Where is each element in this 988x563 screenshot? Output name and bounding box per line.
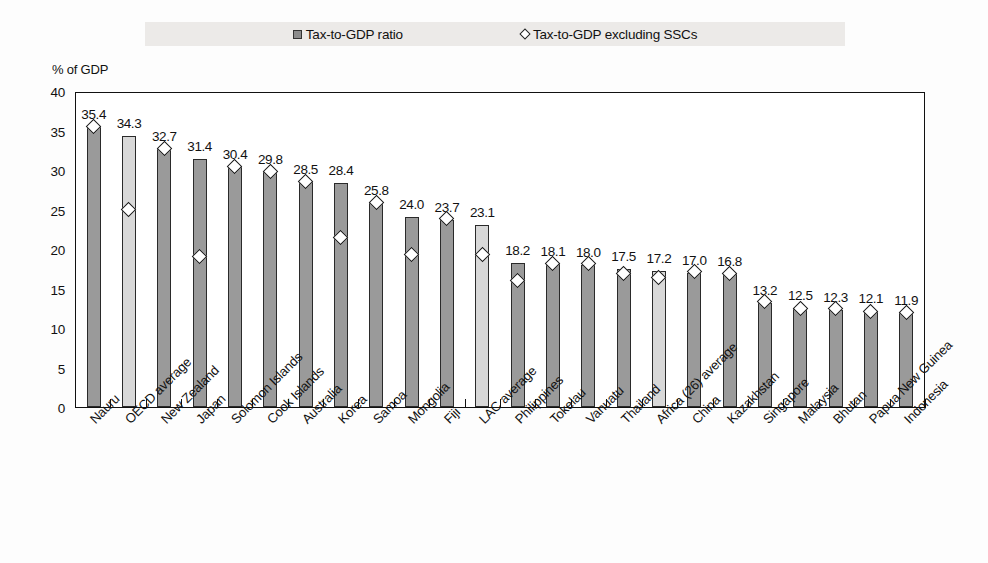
bar-tax-to-gdp-ratio[interactable]: 23.1	[475, 225, 489, 407]
y-axis: 4035302520151050	[0, 92, 75, 408]
bar-value-label: 28.4	[329, 163, 354, 178]
bar-tax-to-gdp-ratio[interactable]: 35.4	[87, 127, 101, 407]
bar-slot[interactable]: 35.4	[76, 93, 111, 407]
bar-slot[interactable]: 18.2	[500, 93, 535, 407]
legend-label-series1: Tax-to-GDP ratio	[306, 27, 403, 42]
bar-value-label: 18.2	[505, 243, 530, 258]
bar-slot[interactable]: 25.8	[359, 93, 394, 407]
legend-item-tax-to-gdp-ratio: Tax-to-GDP ratio	[293, 27, 403, 42]
bar-tax-to-gdp-ratio[interactable]: 28.4	[334, 183, 348, 407]
bar-slot[interactable]: 13.2	[747, 93, 782, 407]
bar-tax-to-gdp-ratio[interactable]: 25.8	[369, 203, 383, 407]
bar-value-label: 24.0	[399, 197, 424, 212]
x-axis-labels: NauruOECD averageNew ZealandJapanSolomon…	[0, 408, 988, 558]
bar-tax-to-gdp-ratio[interactable]: 34.3	[122, 136, 136, 407]
marker-tax-excluding-sscs[interactable]	[510, 273, 526, 289]
bar-slot[interactable]: 23.1	[465, 93, 500, 407]
x-axis-category-label: Fiji	[441, 405, 463, 427]
x-axis-tick-mark	[75, 399, 76, 408]
bar-slot[interactable]: 11.9	[889, 93, 924, 407]
marker-tax-excluding-sscs[interactable]	[474, 247, 490, 263]
marker-tax-excluding-sscs[interactable]	[192, 249, 208, 265]
bar-value-label: 17.5	[611, 249, 636, 264]
filled-square-icon	[293, 30, 302, 39]
bar-value-label: 31.4	[187, 139, 212, 154]
bar-slot[interactable]: 12.1	[853, 93, 888, 407]
bar-value-label: 17.2	[647, 251, 672, 266]
bar-slot[interactable]: 34.3	[111, 93, 146, 407]
bar-slot[interactable]: 28.4	[323, 93, 358, 407]
bar-series-container: 35.434.332.731.430.429.828.528.425.824.0…	[76, 93, 924, 407]
y-axis-tick-label: 5	[58, 361, 65, 376]
legend-label-series2: Tax-to-GDP excluding SSCs	[533, 27, 697, 42]
bar-slot[interactable]: 24.0	[394, 93, 429, 407]
plot-area: 35.434.332.731.430.429.828.528.425.824.0…	[75, 92, 925, 408]
y-axis-title: % of GDP	[52, 62, 108, 77]
bar-slot[interactable]: 12.3	[818, 93, 853, 407]
bar-value-label: 34.3	[117, 116, 142, 131]
bar-slot[interactable]: 30.4	[217, 93, 252, 407]
y-axis-tick-label: 25	[51, 203, 65, 218]
chart-page: Tax-to-GDP ratio Tax-to-GDP excluding SS…	[0, 0, 988, 563]
x-axis-tick-mark	[465, 399, 466, 408]
marker-tax-excluding-sscs[interactable]	[404, 247, 420, 263]
bar-slot[interactable]: 17.5	[606, 93, 641, 407]
diamond-outline-icon	[519, 28, 530, 39]
marker-tax-excluding-sscs[interactable]	[651, 269, 667, 285]
bar-tax-to-gdp-ratio[interactable]: 24.0	[405, 217, 419, 407]
y-axis-tick-label: 35	[51, 124, 65, 139]
legend-item-tax-to-gdp-excluding-sscs: Tax-to-GDP excluding SSCs	[521, 27, 697, 42]
marker-tax-excluding-sscs[interactable]	[616, 266, 632, 282]
bar-tax-to-gdp-ratio[interactable]: 18.0	[581, 265, 595, 407]
y-axis-tick-label: 20	[51, 243, 65, 258]
bar-slot[interactable]: 18.1	[535, 93, 570, 407]
bar-slot[interactable]: 18.0	[571, 93, 606, 407]
bar-slot[interactable]: 12.5	[783, 93, 818, 407]
chart-legend: Tax-to-GDP ratio Tax-to-GDP excluding SS…	[145, 22, 845, 46]
marker-tax-excluding-sscs[interactable]	[333, 230, 349, 246]
y-axis-tick-label: 30	[51, 164, 65, 179]
marker-tax-excluding-sscs[interactable]	[121, 202, 137, 218]
bar-slot[interactable]: 17.0	[677, 93, 712, 407]
bar-slot[interactable]: 23.7	[429, 93, 464, 407]
bar-tax-to-gdp-ratio[interactable]: 30.4	[228, 167, 242, 407]
bar-slot[interactable]: 17.2	[641, 93, 676, 407]
y-axis-tick-label: 40	[51, 85, 65, 100]
y-axis-tick-label: 15	[51, 282, 65, 297]
y-axis-tick-label: 10	[51, 322, 65, 337]
bar-tax-to-gdp-ratio[interactable]: 12.1	[864, 311, 878, 407]
bar-value-label: 23.1	[470, 205, 495, 220]
